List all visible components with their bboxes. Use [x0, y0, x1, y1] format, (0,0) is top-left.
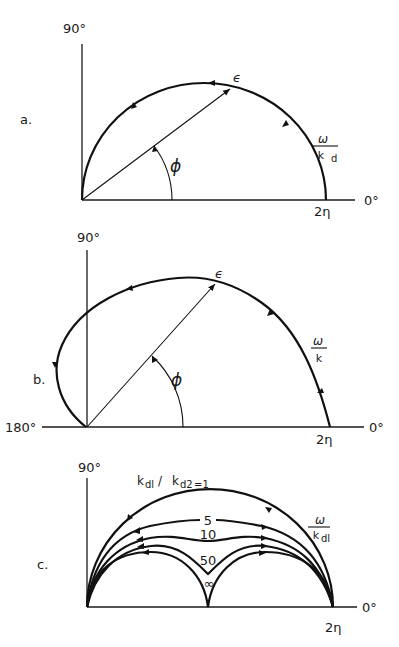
panel-c-family-k1: k [137, 474, 144, 488]
panel-c-label: c. [37, 557, 48, 572]
panel-c-family-k2: k [172, 474, 179, 488]
panel-a-90-label: 90° [63, 21, 86, 36]
panel-a: 90° 0° a. ϵ ϕ ω k d 2η [20, 21, 379, 219]
panel-c-arrow-icon [261, 524, 268, 530]
panel-a-k-subscript: d [331, 153, 337, 164]
panel-b-label: b. [33, 372, 45, 387]
panel-a-omega-label: ω [318, 132, 328, 146]
panel-c-family-k1-sub: dl [145, 479, 154, 490]
panel-b-epsilon-label: ϵ [215, 266, 223, 281]
panel-c-arrow-icon [265, 507, 272, 513]
panel-b-0-label: 0° [369, 420, 384, 435]
panel-a-0-label: 0° [364, 193, 379, 208]
panel-b-omega-label: ω [313, 334, 323, 348]
panel-b-locus-curve [57, 278, 330, 427]
panel-b-90-label: 90° [77, 230, 100, 245]
panel-c-omega-label: ω [315, 513, 325, 527]
panel-c-ratio-5-label: 5 [204, 513, 212, 528]
panel-a-arrow-icon [282, 120, 289, 127]
figure-canvas: 90° 0° a. ϵ ϕ ω k d 2η 90° 180° 0° b. [0, 0, 399, 647]
panel-a-label: a. [20, 112, 32, 127]
panel-a-2eta-label: 2η [314, 204, 331, 219]
panel-c-family-eq: =1 [194, 479, 209, 490]
panel-c-2eta-label: 2η [325, 620, 342, 635]
panel-c-90-label: 90° [78, 460, 101, 475]
panel-c-k-label: k [313, 529, 320, 542]
panel-a-epsilon-label: ϵ [233, 70, 241, 85]
panel-c-ratio-inf-label: ∞ [204, 576, 215, 591]
panel-b-phi-arrow-icon [152, 356, 158, 363]
panel-a-locus-curve [82, 83, 326, 200]
panel-c-family-sep: / [158, 474, 163, 488]
panel-c-0-label: 0° [362, 600, 377, 615]
panel-b-phi-label: ϕ [171, 370, 182, 390]
panel-c-arrow-icon [259, 550, 266, 556]
panel-c-arrow-icon [261, 535, 268, 541]
panel-b-epsilon-vector [87, 284, 215, 427]
panel-a-phi-label: ϕ [170, 156, 181, 176]
panel-b-2eta-label: 2η [316, 432, 333, 447]
panel-c-k-subscript: dl [321, 533, 330, 544]
panel-c-arrow-icon [261, 543, 268, 549]
panel-a-epsilon-vector [82, 89, 230, 200]
panel-c-ratio-50-label: 50 [200, 553, 217, 568]
panel-a-arrow-icon [208, 80, 215, 86]
panel-b-180-label: 180° [5, 420, 36, 435]
panel-b-phi-arc [152, 356, 183, 427]
panel-b: 90° 180° 0° b. ϵ ϕ ω k 2η [5, 230, 384, 447]
panel-a-k-label: k [318, 149, 325, 162]
panel-c: 90° 0° c. k dl / k d2 =1 5 10 [37, 460, 377, 635]
panel-b-k-label: k [316, 352, 323, 365]
panel-c-family-k2-sub: d2 [180, 479, 193, 490]
panel-c-ratio-10-label: 10 [200, 527, 217, 542]
